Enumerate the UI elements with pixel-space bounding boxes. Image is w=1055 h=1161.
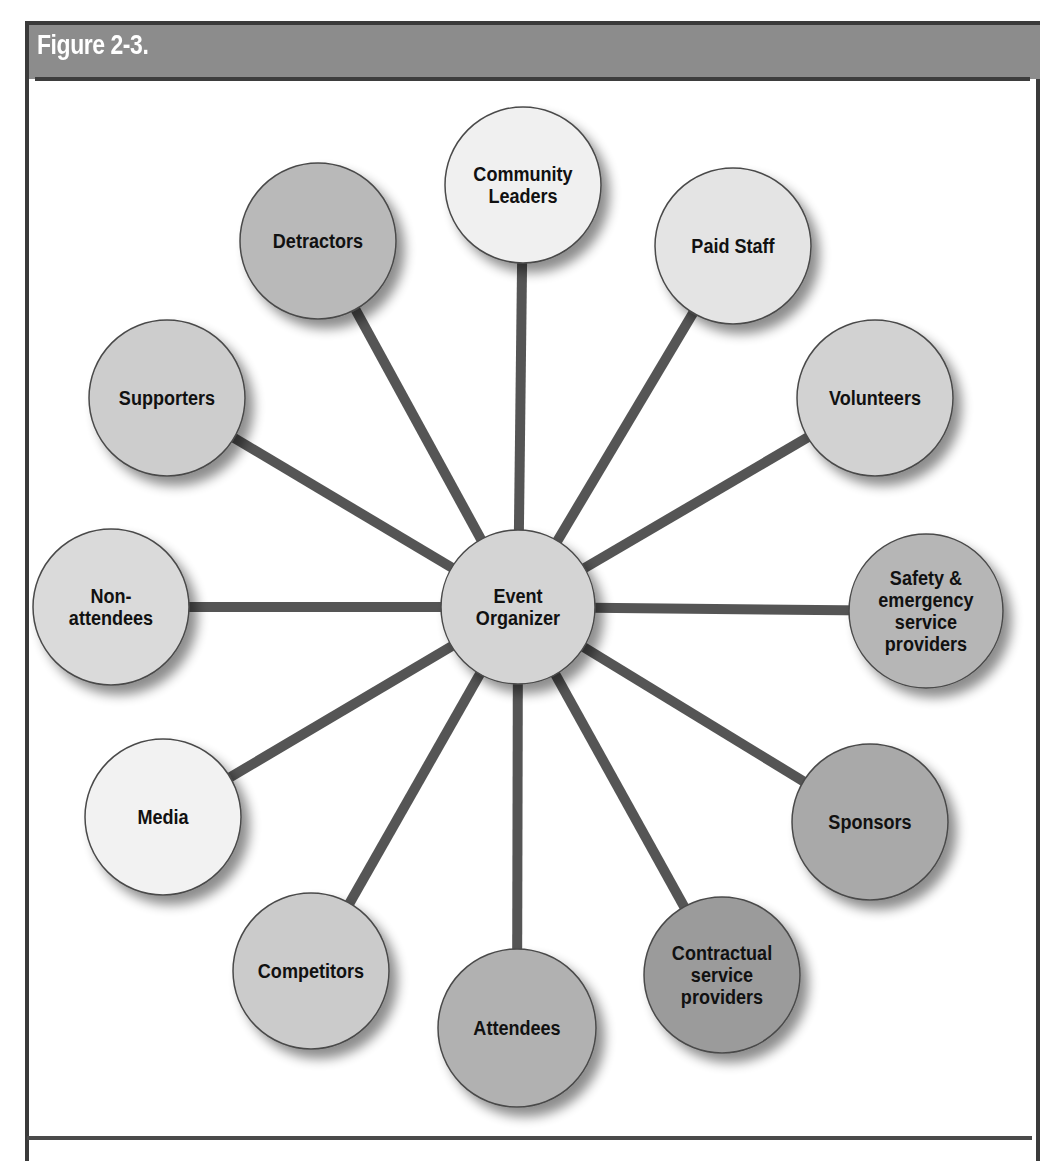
node-label-line: Non-	[90, 584, 131, 608]
node-label-line: Media	[137, 805, 189, 829]
node-label-line: Detractors	[273, 229, 363, 253]
node-label-line: Organizer	[476, 606, 561, 630]
node-label-line: Paid Staff	[691, 234, 775, 258]
node-label-line: Attendees	[473, 1016, 560, 1040]
node-label-line: Sponsors	[828, 810, 911, 834]
node-paid-staff: Paid Staff	[655, 168, 811, 324]
node-label-line: Community	[473, 162, 572, 186]
node-label-line: Safety &	[890, 566, 962, 590]
node-label-line: service	[691, 963, 753, 987]
node-non-attendees: Non-attendees	[33, 529, 189, 685]
node-safety-emergency: Safety &emergencyserviceproviders	[849, 534, 1003, 688]
node-detractors: Detractors	[240, 163, 396, 319]
node-supporters: Supporters	[89, 320, 245, 476]
node-label-line: Volunteers	[829, 386, 921, 410]
node-media: Media	[85, 739, 241, 895]
node-label-line: providers	[681, 985, 763, 1009]
node-label-line: providers	[885, 632, 967, 656]
node-label-line: Leaders	[488, 184, 557, 208]
node-label-line: emergency	[878, 588, 973, 612]
node-event-organizer: EventOrganizer	[441, 530, 595, 684]
node-label-line: Contractual	[672, 941, 772, 965]
node-competitors: Competitors	[233, 893, 389, 1049]
node-community-leaders: CommunityLeaders	[445, 107, 601, 263]
node-label-line: Event	[493, 584, 543, 608]
node-label-line: service	[895, 610, 957, 634]
node-volunteers: Volunteers	[797, 320, 953, 476]
node-label-line: attendees	[69, 606, 153, 630]
node-label-line: Competitors	[258, 959, 364, 983]
node-contractual-service-providers: Contractualserviceproviders	[644, 897, 800, 1053]
node-label-line: Supporters	[119, 386, 215, 410]
node-attendees: Attendees	[438, 949, 596, 1107]
node-sponsors: Sponsors	[792, 744, 948, 900]
center-layer: EventOrganizer	[441, 530, 595, 684]
